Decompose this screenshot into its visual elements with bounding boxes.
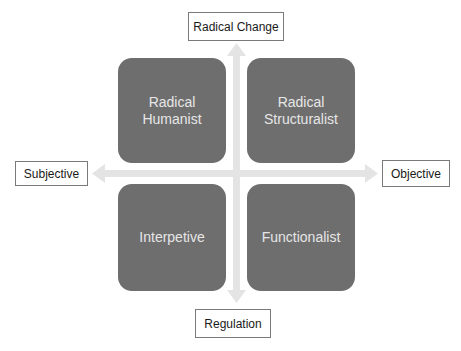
quadrant-radical-humanist: Radical Humanist [118,58,226,163]
objective-label: Objective [382,160,450,187]
objective-text: Objective [391,167,441,181]
radical-change-label: Radical Change [188,12,284,41]
quadrant-interpretive: Interpetive [118,184,226,291]
subjective-label: Subjective [15,161,88,186]
radical-change-text: Radical Change [193,20,278,34]
quadrant-label: Functionalist [262,229,341,246]
regulation-label: Regulation [195,309,271,338]
quadrant-label: Radical Humanist [142,94,201,128]
quadrant-label: Radical Structuralist [264,94,338,128]
regulation-text: Regulation [204,317,261,331]
subjective-text: Subjective [24,167,79,181]
quadrant-label: Interpetive [139,229,204,246]
quadrant-functionalist: Functionalist [247,184,355,291]
quadrant-radical-structuralist: Radical Structuralist [247,58,355,163]
